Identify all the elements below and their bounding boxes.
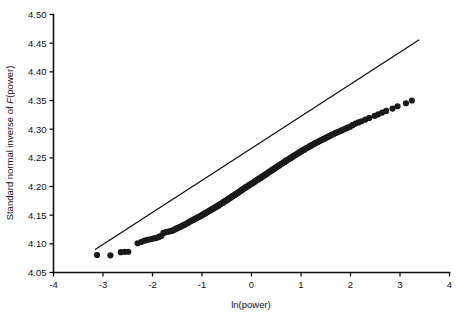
y-tick-label: 4.10 — [28, 238, 47, 249]
x-tick-label: -1 — [198, 279, 206, 290]
y-tick-label: 4.50 — [28, 9, 47, 20]
data-point — [107, 252, 113, 258]
data-point — [125, 249, 131, 255]
qq-plot-figure: 4.054.104.154.204.254.304.354.404.454.50… — [0, 0, 468, 320]
x-tick-label: -2 — [148, 279, 156, 290]
data-point — [383, 108, 389, 114]
y-axis-title-suffix: (power) — [4, 66, 15, 98]
data-point — [366, 115, 372, 121]
x-tick-label: 1 — [298, 279, 303, 290]
y-tick-label: 4.30 — [28, 124, 47, 135]
qq-plot-svg: 4.054.104.154.204.254.304.354.404.454.50… — [0, 0, 468, 320]
x-tick-label: -4 — [49, 279, 57, 290]
x-tick-label: 2 — [348, 279, 353, 290]
y-tick-label: 4.20 — [28, 181, 47, 192]
data-point — [394, 103, 400, 109]
x-tick-label: 4 — [447, 279, 452, 290]
x-tick-label: 3 — [397, 279, 402, 290]
x-axis-title: ln(power) — [231, 299, 271, 310]
y-tick-label: 4.05 — [28, 267, 47, 278]
y-tick-label: 4.15 — [28, 210, 47, 221]
y-tick-label: 4.35 — [28, 95, 47, 106]
y-axis-title-prefix: Standard normal inverse of — [4, 104, 15, 221]
y-tick-label: 4.40 — [28, 66, 47, 77]
data-point — [409, 97, 415, 103]
x-tick-label: -3 — [99, 279, 107, 290]
data-point — [403, 100, 409, 106]
x-tick-label: 0 — [249, 279, 254, 290]
y-tick-label: 4.45 — [28, 38, 47, 49]
data-point — [94, 252, 100, 258]
y-axis-title: Standard normal inverse of F(power) — [4, 66, 15, 221]
y-tick-label: 4.25 — [28, 152, 47, 163]
